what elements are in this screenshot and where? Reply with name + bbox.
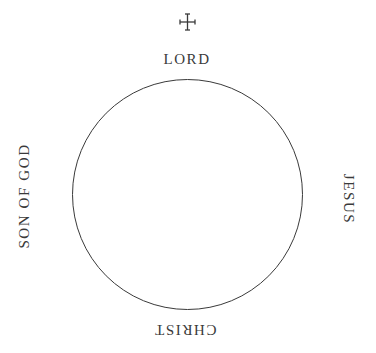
- diagram-canvas: LORD SON OF GOD JESUS CHRIST: [0, 0, 376, 353]
- label-son-of-god: SON OF GOD: [17, 143, 32, 248]
- label-christ: CHRIST: [154, 322, 217, 337]
- label-lord: LORD: [163, 52, 210, 67]
- cross-icon: [179, 13, 196, 31]
- label-jesus: JESUS: [341, 174, 356, 225]
- central-circle: [72, 79, 303, 310]
